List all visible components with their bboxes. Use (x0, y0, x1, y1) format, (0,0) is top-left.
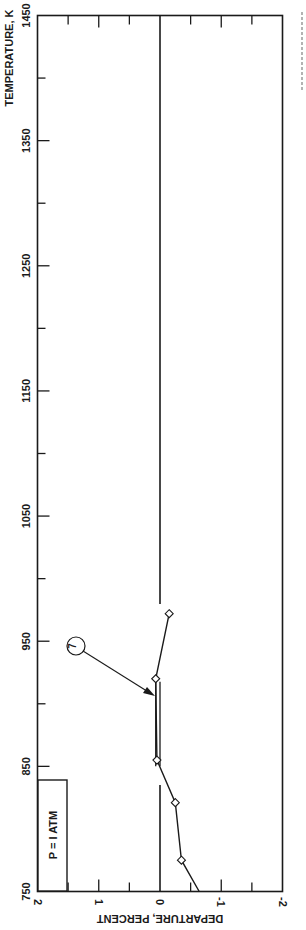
temperature-tick-label: 1450 (20, 3, 32, 27)
temperature-tick-label: 1150 (20, 379, 32, 403)
diamond-marker-icon (177, 856, 185, 864)
temperature-tick-label: 950 (20, 632, 32, 650)
y-axis-title: DEPARTURE, PERCENT (97, 913, 224, 925)
diamond-marker-icon (171, 799, 179, 807)
temperature-tick-label: 1350 (20, 128, 32, 152)
departure-tick-label: 2 (32, 899, 44, 905)
legend-text: P = I ATM (47, 811, 59, 859)
departure-chart: P = I ATM 7 7508509501050115012501350145… (0, 0, 306, 930)
data-series-7 (152, 610, 199, 892)
x-axis-title: TEMPERATURE, K (3, 9, 15, 106)
departure-tick-labels: 210-1-2 (32, 897, 289, 907)
departure-tick-label: 1 (93, 899, 105, 905)
diamond-marker-icon (165, 610, 173, 618)
temperature-tick-labels: 75085095010501150125013501450 (20, 3, 32, 900)
departure-tick-label: 0 (154, 899, 166, 905)
svg-text:7: 7 (67, 643, 78, 649)
temperature-tick-label: 1250 (20, 254, 32, 278)
curve-label-7: 7 (67, 637, 155, 696)
temperature-tick-label: 750 (20, 882, 32, 900)
arrowhead-icon (143, 687, 155, 696)
departure-tick-label: -2 (277, 897, 289, 907)
temperature-tick-label: 850 (20, 757, 32, 775)
departure-tick-label: -1 (215, 897, 227, 907)
diamond-marker-icon (152, 675, 160, 683)
axis-ticks (38, 16, 252, 892)
temperature-tick-label: 1050 (20, 504, 32, 528)
